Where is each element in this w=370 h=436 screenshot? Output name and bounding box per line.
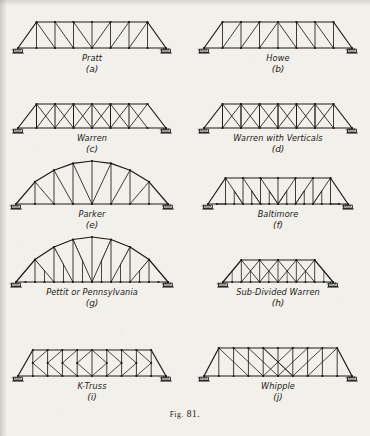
truss-key-parker: (e) [4, 220, 180, 231]
figure-page: Pratt(a)Howe(b)Warren(c)Warren with Vert… [0, 0, 370, 436]
truss-cell-warren-verticals: Warren with Verticals(d) [192, 82, 364, 142]
truss-diagram-whipple [192, 330, 364, 390]
truss-key-sub-divided-warren: (h) [211, 298, 345, 309]
figure-caption-number: 81. [187, 409, 201, 419]
truss-cell-parker: Parker(e) [4, 158, 180, 218]
truss-cell-whipple: Whipple(j) [192, 330, 364, 390]
truss-key-baltimore: (f) [196, 220, 360, 231]
truss-key-howe: (b) [192, 64, 364, 75]
truss-diagram-warren-verticals [192, 82, 364, 142]
truss-cell-k-truss: K-Truss(i) [6, 330, 178, 390]
truss-cell-baltimore: Baltimore(f) [196, 158, 360, 218]
truss-key-pettit: (g) [4, 298, 180, 309]
truss-key-warren: (c) [6, 144, 178, 155]
figure-caption-prefix: Fig. [170, 410, 184, 419]
truss-figure-grid: Pratt(a)Howe(b)Warren(c)Warren with Vert… [0, 0, 370, 405]
truss-key-warren-verticals: (d) [192, 144, 364, 155]
truss-diagram-pettit [4, 236, 180, 296]
truss-diagram-pratt [6, 2, 178, 62]
truss-cell-warren: Warren(c) [6, 82, 178, 142]
truss-diagram-k-truss [6, 330, 178, 390]
truss-cell-sub-divided-warren: Sub-Divided Warren(h) [211, 236, 345, 296]
truss-diagram-warren [6, 82, 178, 142]
truss-cell-howe: Howe(b) [192, 2, 364, 62]
truss-cell-pratt: Pratt(a) [6, 2, 178, 62]
truss-key-k-truss: (i) [6, 392, 178, 403]
truss-cell-pettit: Pettit or Pennsylvania(g) [4, 236, 180, 296]
truss-key-pratt: (a) [6, 64, 178, 75]
truss-diagram-howe [192, 2, 364, 62]
truss-diagram-baltimore [196, 158, 360, 218]
truss-diagram-parker [4, 158, 180, 218]
truss-diagram-sub-divided-warren [211, 236, 345, 296]
figure-caption: Fig. 81. [0, 409, 370, 419]
truss-key-whipple: (j) [192, 392, 364, 403]
